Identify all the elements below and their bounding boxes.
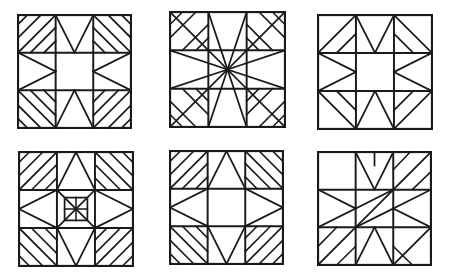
block-1-br-d4 [93,90,118,115]
quilt-block-2 [169,11,286,128]
block-3-frame [318,15,432,129]
block-5-tc-v1 [208,151,227,189]
block-4-bl-d5 [45,228,57,240]
block-6-tc-v1 [356,152,375,190]
block-5-ml-v2 [170,208,208,227]
block-1-br-d3 [122,119,131,128]
block-4-mr-v1 [95,190,133,209]
block-5-br-d3 [273,254,283,264]
block-6-tc-v2 [375,152,394,190]
block-1-bl-d5 [44,90,56,102]
block-4-mr-v2 [95,209,133,228]
block-5-br-d4 [245,226,270,251]
block-4-br-d5 [95,228,107,240]
block-3-bc-v1 [356,91,375,129]
block-4-bl-d3 [19,256,29,266]
block-4-tl-d3 [19,152,29,162]
block-1-tl-d4 [30,27,55,52]
block-2-center-hub [225,67,230,72]
block-6-br-d1 [393,227,431,265]
block-6-center-diag2 [356,190,394,209]
quilt-block-4 [18,151,134,267]
block-1-tr-d4 [93,27,118,52]
quilt-block-1 [17,14,132,129]
block-6-bc-v2 [375,227,394,265]
block-4-tr-d4 [95,164,121,189]
block-3-tc-v1 [356,15,375,53]
block-2-ray-sw [170,70,227,127]
block-4-tc-v1 [57,152,76,190]
block-3-bc-v2 [375,91,394,129]
block-5-mr-v2 [245,208,283,227]
quilt-block-6 [317,151,432,266]
block-4-bl-d4 [31,228,56,254]
block-3-canvas [317,14,433,130]
block-4-br-d3 [123,256,133,266]
block-6-bc-v1 [356,227,375,265]
block-1-bc-v1 [56,90,75,128]
block-5-bc-v2 [227,226,246,264]
block-5-tl-d4 [182,163,207,188]
block-4-bc-v1 [57,228,76,266]
block-6-canvas [317,151,432,266]
block-5-br-d5 [245,226,257,238]
block-4-tc-v2 [76,152,95,190]
block-2-ray-ne [228,12,285,69]
block-3-tl-d2 [337,34,356,53]
block-1-canvas [17,14,132,129]
block-5-tr-d3 [273,151,283,161]
quilt-pattern-page [0,0,449,279]
block-1-bl-d3 [18,119,27,128]
block-2-ray-se [228,70,285,127]
block-3-mr-v2 [394,72,432,91]
block-3-tr-d2 [394,34,413,53]
block-5-br-d2 [259,240,283,264]
block-4-tr-d2 [109,152,133,176]
block-6-ml-v1 [318,190,356,209]
block-5-frame [170,151,283,264]
block-5-tl-d2 [170,151,194,175]
block-6-bl-d1 [318,227,356,265]
block-1-tc-v2 [75,15,94,53]
block-3-tr-d1 [394,15,432,53]
block-4-br-d2 [109,242,133,266]
block-2-ray-nw [170,12,227,69]
block-6-ml-v2 [318,209,356,228]
block-3-tl-d1 [318,15,356,53]
block-5-bl-d3 [170,254,180,264]
block-3-br-d2 [394,91,413,110]
block-5-bl-d2 [170,240,194,264]
block-1-ml-v2 [18,72,56,91]
block-4-ml-v1 [19,190,57,209]
block-5-canvas [169,150,284,265]
block-5-tr-d5 [245,177,257,189]
block-6-bl-d2 [318,227,337,246]
block-4-bc-v2 [76,228,95,266]
block-1-mr-v1 [93,53,131,72]
block-1-bl-d4 [30,90,55,115]
block-1-tl-d3 [18,15,27,24]
block-3-bl-d2 [337,91,356,110]
block-5-tl-d3 [170,151,180,161]
block-6-mr-v1 [393,190,431,209]
block-5-ml-v1 [170,189,208,208]
block-5-tr-d2 [259,151,283,175]
block-6-tr-d1 [393,152,431,190]
block-4-ml-v2 [19,209,57,228]
block-4-bl-d2 [19,242,43,266]
block-1-frame [18,15,131,128]
block-6-center-diag3 [356,209,394,228]
quilt-block-3 [317,14,433,130]
block-6-bl-d3 [337,246,356,265]
block-5-tc-v2 [227,151,246,189]
block-5-tr-d4 [245,163,270,188]
block-1-tl-d5 [44,41,56,53]
block-5-bl-d4 [182,226,207,251]
quilt-block-5 [169,150,284,265]
block-6-center-diag1 [356,190,394,228]
block-3-br-d1 [394,91,432,129]
block-1-tr-d5 [93,41,105,53]
block-3-ml-v1 [318,53,356,72]
block-3-tc-v2 [375,15,394,53]
block-6-tr-d2 [412,172,431,190]
